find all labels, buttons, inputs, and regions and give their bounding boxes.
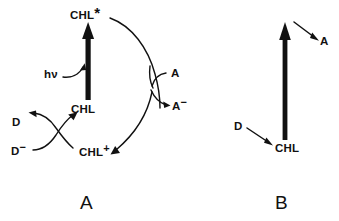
acceptor-anion-arrow-head bbox=[163, 102, 170, 108]
return-curve-to-chl-cation bbox=[116, 92, 152, 150]
diagram-canvas: CHL* hν CHL CHL+ A A− D D− A bbox=[0, 0, 339, 221]
donor-arrow-b-shaft bbox=[247, 128, 268, 142]
excitation-arrow-shaft-b bbox=[283, 36, 288, 140]
donor-arrow-b-head bbox=[264, 137, 273, 145]
label-acceptor: A bbox=[171, 67, 180, 79]
label-acceptor-b: A bbox=[320, 35, 329, 47]
panel-b-group: A D CHL B bbox=[234, 22, 329, 213]
label-donor: D bbox=[12, 116, 21, 128]
chl-cation-to-donor-curve bbox=[34, 113, 73, 148]
acceptor-inflow-curve bbox=[152, 73, 166, 86]
photon-pointer-curve bbox=[63, 67, 83, 77]
label-chl-b: CHL bbox=[275, 142, 299, 154]
photon-pointer-head bbox=[80, 63, 86, 70]
panel-a-group: CHL* hν CHL CHL+ A A− D D− A bbox=[11, 4, 187, 213]
excitation-arrow-b bbox=[279, 22, 291, 140]
transfer-arrow-b-to-acceptor-head bbox=[310, 33, 319, 41]
label-donor-anion: D− bbox=[11, 141, 26, 157]
label-chl-excited: CHL* bbox=[70, 4, 100, 21]
label-chl-ground: CHL bbox=[71, 103, 95, 115]
excitation-arrow-shaft-a bbox=[86, 35, 91, 100]
label-acceptor-anion: A− bbox=[172, 96, 187, 112]
panel-letter-a: A bbox=[80, 192, 93, 213]
transfer-curve-chlstar-to-a bbox=[110, 18, 160, 108]
label-photon: hν bbox=[44, 68, 58, 80]
label-chl-cation: CHL+ bbox=[79, 142, 110, 158]
chl-cation-to-donor-arrow-head bbox=[29, 110, 37, 117]
donor-anion-to-chl-curve bbox=[33, 115, 73, 150]
label-donor-b: D bbox=[234, 120, 243, 132]
figure-root: CHL* hν CHL CHL+ A A− D D− A bbox=[0, 0, 339, 221]
panel-letter-b: B bbox=[275, 192, 288, 213]
excitation-arrow-head-b bbox=[279, 22, 291, 40]
transfer-arrow-b-to-acceptor-shaft bbox=[294, 22, 314, 37]
excitation-arrow-head-a bbox=[82, 22, 94, 39]
excitation-arrow-a bbox=[82, 22, 94, 100]
